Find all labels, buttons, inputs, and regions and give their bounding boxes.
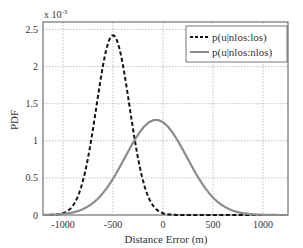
x-axis-label: Distance Error (m) [124, 233, 207, 246]
y-axis-label: PDF [8, 110, 20, 130]
x-tick-label: 1000 [253, 219, 273, 230]
y-tick-label: 1 [33, 135, 38, 146]
legend-label: p(u|nlos:nlos) [212, 46, 273, 59]
legend-label: p(u|nlos:los) [212, 31, 267, 44]
x-tick-label: -500 [104, 219, 122, 230]
y-tick-label: 2.5 [26, 24, 39, 35]
series-2-line [43, 120, 288, 215]
x-tick-label: 0 [161, 219, 166, 230]
y-tick-label: 0.5 [26, 172, 39, 183]
chart-container: -1000-5000500100000.511.522.5 x 10-3 PDF… [0, 0, 303, 248]
y-tick-label: 0 [33, 210, 38, 221]
line-chart: -1000-5000500100000.511.522.5 x 10-3 PDF… [0, 0, 303, 248]
y-tick-label: 1.5 [26, 98, 39, 109]
y-multiplier: x 10-3 [44, 8, 68, 20]
x-tick-label: 500 [206, 219, 221, 230]
y-tick-label: 2 [33, 61, 38, 72]
x-tick-label: -1000 [51, 219, 74, 230]
legend: p(u|nlos:los)p(u|nlos:nlos) [186, 26, 287, 62]
